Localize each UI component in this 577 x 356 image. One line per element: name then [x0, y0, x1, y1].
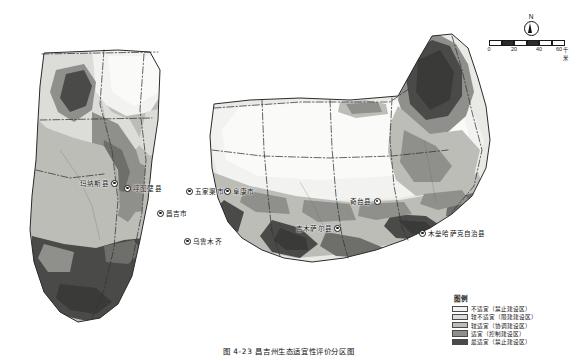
place-dot-icon	[186, 188, 193, 195]
place-label: 木垒哈萨克自治县	[428, 228, 486, 238]
place-label: 玛纳斯县	[80, 178, 109, 188]
scale-tick: 40	[536, 46, 542, 52]
scale-bar-ticks: 0 20 40 60 千米	[487, 46, 567, 55]
place-label: 昌吉市	[166, 208, 188, 218]
map-figure: 玛纳斯县 呼图壁县 五家渠市 阜康市 昌吉市 乌鲁木齐 吉木萨尔县 奇台县 木垒…	[0, 0, 577, 356]
place-marker[interactable]: 阜康市	[224, 186, 255, 196]
place-marker[interactable]: 奇台县	[350, 196, 381, 206]
place-dot-icon	[184, 238, 191, 245]
legend-item[interactable]: 适宜（控制建设区）	[452, 330, 548, 337]
place-marker[interactable]: 昌吉市	[157, 208, 188, 218]
place-dot-icon	[374, 198, 381, 205]
place-label: 五家渠市	[195, 186, 224, 196]
place-label: 呼图壁县	[133, 183, 162, 193]
place-marker[interactable]: 吉木萨尔县	[296, 223, 341, 233]
legend-title: 图例	[454, 293, 548, 303]
figure-caption: 图 4-23 昌吉州生态适宜性评价分区图	[0, 345, 577, 356]
legend-item[interactable]: 较不适宜（限建建设区）	[452, 313, 548, 320]
place-dot-icon	[111, 180, 118, 187]
legend-item[interactable]: 较适宜（协调建设区）	[452, 322, 548, 329]
place-dot-icon	[124, 185, 131, 192]
place-label: 奇台县	[350, 196, 372, 206]
place-marker[interactable]: 木垒哈萨克自治县	[419, 228, 486, 238]
place-dot-icon	[224, 188, 231, 195]
legend-swatch	[452, 322, 468, 328]
east-landmass	[200, 20, 500, 280]
scale-bar: 0 20 40 60 千米	[487, 40, 573, 58]
north-arrow-icon	[524, 21, 539, 36]
place-dot-icon	[419, 230, 426, 237]
place-marker[interactable]: 呼图壁县	[124, 183, 162, 193]
place-label: 乌鲁木齐	[193, 236, 222, 246]
place-label: 吉木萨尔县	[296, 223, 332, 233]
scale-tick: 20	[511, 46, 517, 52]
legend-swatch	[452, 314, 468, 320]
place-marker[interactable]: 乌鲁木齐	[184, 236, 222, 246]
scale-unit-label: 千米	[563, 46, 568, 62]
legend-swatch	[452, 306, 468, 312]
place-dot-icon	[157, 210, 164, 217]
north-arrow-label: N	[515, 13, 547, 20]
legend: 图例 不适宜（禁止建设区） 较不适宜（限建建设区） 较适宜（协调建设区） 适宜（…	[452, 293, 548, 346]
place-dot-icon	[334, 225, 341, 232]
legend-item[interactable]: 不适宜（禁止建设区）	[452, 305, 548, 312]
scale-tick: 60	[556, 46, 562, 52]
place-label: 阜康市	[233, 186, 255, 196]
scale-tick: 0	[488, 46, 491, 52]
place-marker[interactable]: 玛纳斯县	[80, 178, 118, 188]
legend-swatch	[452, 330, 468, 336]
place-marker[interactable]: 五家渠市	[186, 186, 224, 196]
